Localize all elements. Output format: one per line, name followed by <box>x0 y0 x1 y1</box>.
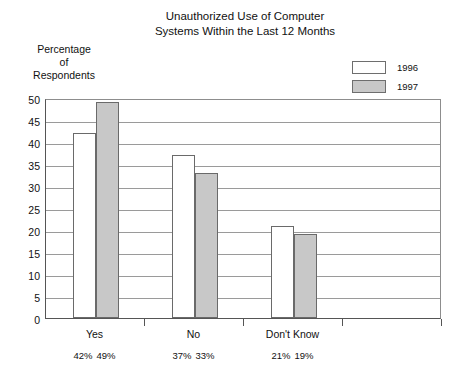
legend-label-1996: 1996 <box>397 62 418 73</box>
bar-yes-1996 <box>73 133 96 318</box>
value-label-don-t-know-1997: 19% <box>294 350 313 361</box>
value-label-no-1997: 33% <box>195 350 214 361</box>
y-axis-tick-label: 0 <box>34 314 40 326</box>
y-axis-label: Percentage of Respondents <box>18 43 110 82</box>
x-axis-tick <box>441 319 442 326</box>
category-label-no: No <box>187 328 200 340</box>
y-axis-tick-label: 20 <box>28 226 40 238</box>
category-label-don-t-know: Don't Know <box>266 328 319 340</box>
y-axis-tick-label: 35 <box>28 160 40 172</box>
chart-legend: 1996 1997 <box>352 60 418 98</box>
x-axis-tick <box>243 319 244 326</box>
bar-series-group <box>46 100 440 318</box>
y-axis-tick-label: 40 <box>28 138 40 150</box>
y-axis-tick-label: 15 <box>28 248 40 260</box>
plot-area: 50454035302520151050 <box>45 99 441 319</box>
y-axis-label-line-1: Percentage <box>18 43 110 56</box>
chart-title-line-1: Unauthorized Use of Computer <box>120 9 370 24</box>
y-axis-tick-label: 5 <box>34 292 40 304</box>
bar-don-t-know-1997 <box>294 234 317 318</box>
legend-label-1997: 1997 <box>397 81 418 92</box>
y-axis-tick-label: 45 <box>28 116 40 128</box>
y-axis-tick-label: 50 <box>28 94 40 106</box>
legend-item-1996: 1996 <box>352 60 418 75</box>
x-axis-category-labels: YesNoDon't Know <box>45 328 441 342</box>
white-swatch-icon <box>352 61 386 74</box>
value-label-no-1996: 37% <box>172 350 191 361</box>
bar-value-labels: 42%49%37%33%21%19% <box>45 350 441 364</box>
category-label-yes: Yes <box>86 328 103 340</box>
x-axis-ticks <box>45 319 441 326</box>
value-label-yes-1996: 42% <box>73 350 92 361</box>
bar-don-t-know-1996 <box>271 226 294 318</box>
value-label-don-t-know-1996: 21% <box>271 350 290 361</box>
gray-swatch-icon <box>352 80 386 93</box>
chart-title: Unauthorized Use of Computer Systems Wit… <box>120 9 370 39</box>
y-axis-tick-label: 30 <box>28 182 40 194</box>
y-axis-label-line-3: Respondents <box>18 69 110 82</box>
bar-yes-1997 <box>96 102 119 318</box>
bar-no-1996 <box>172 155 195 318</box>
bar-no-1997 <box>195 173 218 318</box>
x-axis-tick <box>144 319 145 326</box>
bar-chart: Unauthorized Use of Computer Systems Wit… <box>0 0 471 370</box>
y-axis-tick-label: 10 <box>28 270 40 282</box>
value-label-yes-1997: 49% <box>96 350 115 361</box>
y-axis-tick-label: 25 <box>28 204 40 216</box>
chart-title-line-2: Systems Within the Last 12 Months <box>120 24 370 39</box>
x-axis-tick <box>342 319 343 326</box>
legend-item-1997: 1997 <box>352 79 418 94</box>
y-axis-label-line-2: of <box>18 56 110 69</box>
